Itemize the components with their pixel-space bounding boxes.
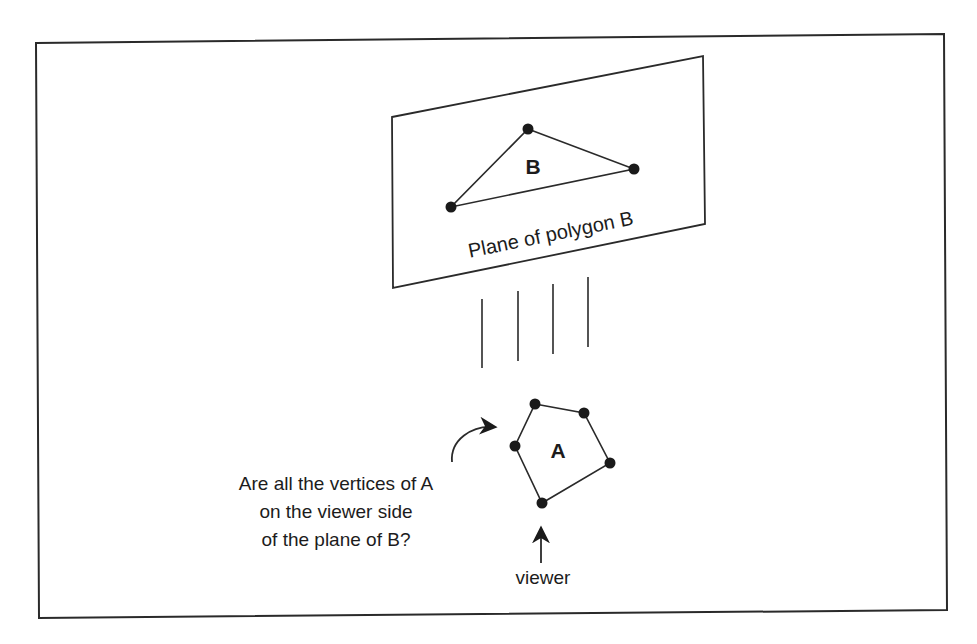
polygon-a-label: A (550, 439, 565, 462)
polygon-b: B (446, 124, 640, 213)
polygon-b-vertices (446, 124, 640, 213)
vertex-dot-icon (530, 399, 541, 410)
question-line-1: Are all the vertices of A (239, 473, 434, 494)
projection-lines (482, 277, 588, 368)
vertex-dot-icon (579, 408, 590, 419)
polygon-a: A (510, 399, 616, 509)
question-line-3: of the plane of B? (262, 529, 411, 550)
diagram-canvas: Plane of polygon B B A Are all the verti… (0, 0, 977, 644)
figure-frame (36, 34, 947, 618)
question-annotation: Are all the vertices of A on the viewer … (239, 427, 494, 550)
vertex-dot-icon (537, 498, 548, 509)
plane-of-polygon-b: Plane of polygon B (392, 56, 705, 288)
plane-b-outline (392, 56, 705, 288)
vertex-dot-icon (523, 124, 534, 135)
vertex-dot-icon (605, 458, 616, 469)
polygon-b-outline (451, 129, 634, 207)
viewer-label: viewer (516, 567, 572, 588)
vertex-dot-icon (446, 202, 457, 213)
curved-arrow-icon (452, 427, 494, 462)
viewer-annotation: viewer (516, 529, 572, 588)
question-line-2: on the viewer side (259, 501, 412, 522)
vertex-dot-icon (629, 164, 640, 175)
plane-b-label: Plane of polygon B (466, 207, 635, 262)
vertex-dot-icon (510, 441, 521, 452)
polygon-b-label: B (525, 155, 540, 178)
